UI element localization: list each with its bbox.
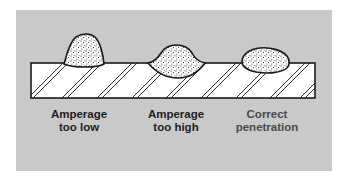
label-line: too high (126, 121, 226, 134)
label-line: Correct (217, 108, 317, 121)
label-line: too low (29, 121, 129, 134)
label-amperage-too-low: Amperage too low (29, 108, 129, 134)
weld-bead-correct (242, 48, 289, 73)
label-line: Amperage (126, 108, 226, 121)
label-line: penetration (217, 121, 317, 134)
weld-penetration-diagram (0, 0, 341, 178)
label-correct-penetration: Correct penetration (217, 108, 317, 134)
label-line: Amperage (29, 108, 129, 121)
label-amperage-too-high: Amperage too high (126, 108, 226, 134)
weld-bead-too-low (64, 34, 104, 67)
